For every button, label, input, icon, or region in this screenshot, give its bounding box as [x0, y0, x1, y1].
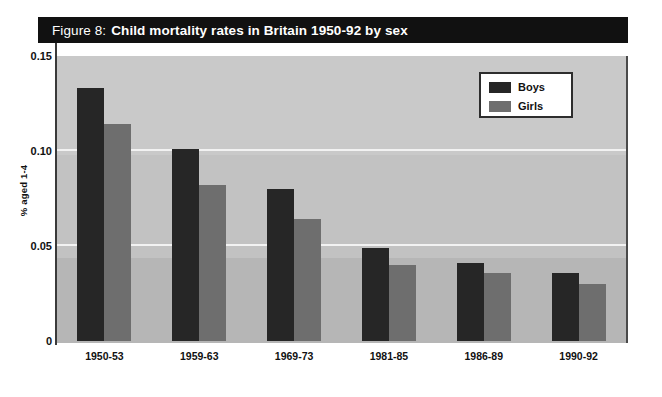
x-tick-label-1981-85: 1981-85 — [342, 350, 437, 362]
bar-boys-1950-53 — [77, 88, 104, 341]
x-tick-label-1986-89: 1986-89 — [436, 350, 531, 362]
bar-boys-1959-63 — [172, 149, 199, 341]
x-tick-label-1950-53: 1950-53 — [57, 350, 152, 362]
y-tick-label: 0.05 — [6, 241, 52, 252]
figure-container: Figure 8: Child mortality rates in Brita… — [0, 0, 662, 397]
bar-girls-1986-89 — [484, 273, 511, 341]
bar-girls-1990-92 — [579, 284, 606, 341]
figure-title-bar: Figure 8: Child mortality rates in Brita… — [38, 17, 628, 43]
plot-band-lower — [57, 258, 626, 343]
legend-item-boys: Boys — [489, 79, 571, 96]
legend-item-girls: Girls — [489, 98, 571, 115]
bar-boys-1969-73 — [267, 189, 294, 341]
y-tick-label: 0 — [6, 336, 52, 347]
plot-band-mid — [57, 155, 626, 258]
bar-girls-1959-63 — [199, 185, 226, 341]
x-tick-label-1959-63: 1959-63 — [152, 350, 247, 362]
bar-boys-1990-92 — [552, 273, 579, 341]
figure-number-label: Figure 8: — [52, 23, 106, 38]
legend-swatch-girls — [489, 101, 511, 112]
x-axis-labels: 1950-531959-631969-731981-851986-891990-… — [57, 350, 628, 370]
y-axis-title: % aged 1-4 — [18, 146, 29, 236]
page-title: Child mortality rates in Britain 1950-92… — [111, 23, 408, 38]
bar-boys-1986-89 — [457, 263, 484, 341]
gridline-0.10 — [57, 149, 626, 151]
x-tick-label-1990-92: 1990-92 — [531, 350, 626, 362]
x-tick-label-1969-73: 1969-73 — [247, 350, 342, 362]
legend-label-boys: Boys — [518, 82, 545, 93]
y-tick-label: 0.15 — [6, 51, 52, 62]
y-tick-label: 0.10 — [6, 146, 52, 157]
bar-girls-1969-73 — [294, 219, 321, 341]
bar-boys-1981-85 — [362, 248, 389, 341]
gridline-0.05 — [57, 244, 626, 246]
bar-girls-1950-53 — [104, 124, 131, 341]
legend-swatch-boys — [489, 82, 511, 93]
chart-legend: BoysGirls — [479, 72, 573, 118]
bar-girls-1981-85 — [389, 265, 416, 341]
legend-label-girls: Girls — [518, 101, 543, 112]
